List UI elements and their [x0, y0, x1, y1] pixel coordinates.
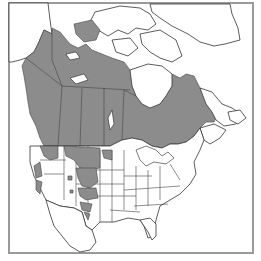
- range-map: [0, 0, 261, 261]
- map-canvas: [0, 0, 261, 261]
